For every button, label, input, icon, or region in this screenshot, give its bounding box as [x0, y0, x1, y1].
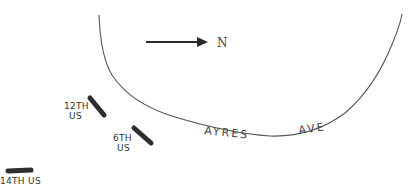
- street-name-ave: AVE: [298, 120, 327, 137]
- ayres-ave-road: [99, 14, 402, 136]
- marker-6th-us-label-line2: US: [117, 143, 130, 153]
- map-canvas: N AYRES AVE 12TH US 6TH US 14TH US: [0, 0, 410, 194]
- marker-6th-us-label-line1: 6TH: [113, 133, 132, 143]
- north-label: N: [217, 36, 228, 50]
- marker-14th-us-label: 14TH US: [0, 176, 41, 186]
- marker-12th-us: [90, 98, 104, 115]
- marker-6th-us: [134, 128, 151, 143]
- north-arrow-icon: [146, 37, 208, 47]
- marker-12th-us-label-line2: US: [69, 111, 82, 121]
- marker-12th-us-label-line1: 12TH: [64, 101, 89, 111]
- street-name-ayres: AYRES: [204, 124, 250, 142]
- marker-14th-us: [8, 170, 31, 171]
